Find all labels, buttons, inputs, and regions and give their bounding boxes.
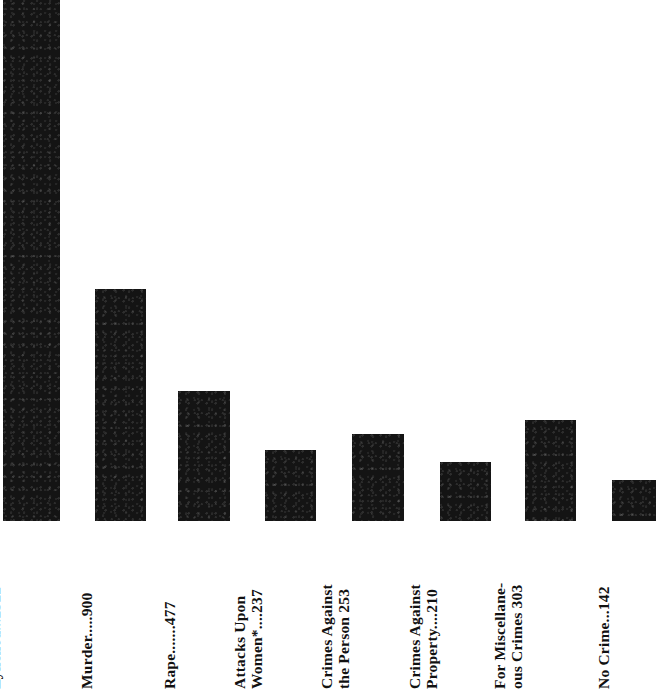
label-line: the Person 253 bbox=[335, 521, 352, 689]
label-attacks-upon-women: Attacks Upon Women*....237 bbox=[231, 521, 265, 689]
label-line: Crimes Against bbox=[318, 521, 335, 689]
bar-total-lynched bbox=[3, 0, 60, 521]
label-line: Crimes Against bbox=[406, 521, 423, 689]
label-slot-rape: Rape.......477 bbox=[178, 521, 230, 689]
bar-crimes-against-property bbox=[440, 462, 491, 521]
bar-slot-crimes-against-property bbox=[440, 0, 491, 521]
label-crimes-against-person: Crimes Against the Person 253 bbox=[318, 521, 352, 689]
label-no-crime: No Crime...142 bbox=[595, 521, 612, 689]
label-total-lynched: Total Lynched...2522 bbox=[0, 521, 3, 689]
label-slot-crimes-against-property: Crimes Against Property....210 bbox=[440, 521, 491, 689]
bar-slot-attacks-upon-women bbox=[265, 0, 316, 521]
bar-no-crime bbox=[612, 480, 656, 521]
bar-chart: Total Lynched...2522 Murder.....900 Rape… bbox=[0, 0, 656, 689]
bar-slot-total-lynched bbox=[3, 0, 60, 521]
bar-miscellaneous-crimes bbox=[525, 420, 576, 521]
label-miscellaneous-crimes: For Miscellane- ous Crimes 303 bbox=[491, 521, 525, 689]
bar-crimes-against-person bbox=[352, 434, 404, 521]
label-line: Rape.......477 bbox=[161, 521, 178, 689]
bar-slot-murder bbox=[95, 0, 146, 521]
bar-slot-miscellaneous-crimes bbox=[525, 0, 576, 521]
label-line: Lynched...2522 bbox=[0, 521, 3, 689]
label-slot-attacks-upon-women: Attacks Upon Women*....237 bbox=[265, 521, 316, 689]
label-murder: Murder.....900 bbox=[78, 521, 95, 689]
bar-rape bbox=[178, 391, 230, 521]
label-line: For Miscellane- bbox=[491, 521, 508, 689]
plot-area bbox=[0, 0, 656, 521]
label-slot-murder: Murder.....900 bbox=[95, 521, 146, 689]
bar-slot-no-crime bbox=[612, 0, 656, 521]
label-line: No Crime...142 bbox=[595, 521, 612, 689]
label-rape: Rape.......477 bbox=[161, 521, 178, 689]
label-line: Attacks Upon bbox=[231, 521, 248, 689]
bar-murder bbox=[95, 289, 146, 521]
label-slot-miscellaneous-crimes: For Miscellane- ous Crimes 303 bbox=[525, 521, 576, 689]
label-line: Women*....237 bbox=[248, 521, 265, 689]
label-line: Property....210 bbox=[423, 521, 440, 689]
category-labels: Total Lynched...2522 Murder.....900 Rape… bbox=[0, 521, 656, 689]
bar-slot-crimes-against-person bbox=[352, 0, 404, 521]
label-slot-crimes-against-person: Crimes Against the Person 253 bbox=[352, 521, 404, 689]
label-slot-total-lynched: Total Lynched...2522 bbox=[3, 521, 60, 689]
label-line: Murder.....900 bbox=[78, 521, 95, 689]
label-slot-no-crime: No Crime...142 bbox=[612, 521, 656, 689]
bar-slot-rape bbox=[178, 0, 230, 521]
bar-attacks-upon-women bbox=[265, 450, 316, 521]
label-line: ous Crimes 303 bbox=[508, 521, 525, 689]
label-crimes-against-property: Crimes Against Property....210 bbox=[406, 521, 440, 689]
